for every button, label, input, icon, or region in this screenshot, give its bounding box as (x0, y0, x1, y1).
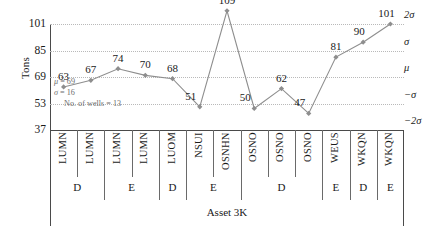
category-separator (186, 130, 187, 177)
category-label: OSNO (248, 132, 259, 178)
y-axis-tick-label: 37 (22, 124, 46, 136)
sigma-value: = 16 (58, 88, 75, 97)
data-point-label: 90 (354, 26, 365, 37)
category-separator (213, 130, 214, 177)
sigma-label: −2σ (404, 116, 438, 127)
group-separator (377, 177, 378, 200)
data-point-label: 109 (219, 0, 236, 6)
sigma-label: σ (404, 36, 438, 47)
wells-count-annotation: No. of wells = 13 (64, 99, 121, 110)
category-label: LUMN (139, 132, 150, 178)
mu-value: = 69 (58, 77, 75, 86)
category-separator (295, 130, 296, 177)
category-label: WKQN (384, 132, 395, 178)
y-axis-tick-label: 101 (22, 18, 46, 30)
category-label: NSUI (194, 132, 205, 178)
y-axis-tick-label: 69 (22, 71, 46, 83)
group-label: E (333, 182, 340, 193)
category-separator (104, 130, 105, 177)
category-separator (350, 130, 351, 177)
data-point-label: 67 (85, 64, 96, 75)
group-separator (322, 177, 323, 200)
data-point-label: 70 (140, 59, 151, 70)
group-label: E (210, 182, 217, 193)
group-label: D (169, 182, 177, 193)
sigma-label: 2σ (404, 10, 438, 21)
category-label: LUOM (167, 132, 178, 178)
data-point-label: 74 (113, 53, 124, 64)
sigma-label: μ (404, 63, 438, 74)
data-point-label: 47 (294, 97, 305, 108)
mean-annotation: μ = 69 (54, 77, 121, 88)
group-label: E (128, 182, 135, 193)
group-separator (159, 177, 160, 200)
data-point-label: 51 (185, 91, 196, 102)
data-point-label: 68 (167, 63, 178, 74)
category-label: LUMN (85, 132, 96, 178)
data-point-marker (333, 55, 338, 60)
sigma-reference-labels: 2σσμ−σ−2σ (404, 0, 440, 226)
category-label: WEUS (330, 132, 341, 178)
category-axis: LUMNLUMNLUMNLUMNLUOMNSUIOSNHNOSNOOSNOOSN… (50, 130, 404, 226)
data-point-marker (143, 73, 148, 78)
category-label: LUMN (112, 132, 123, 178)
category-label: OSNO (275, 132, 286, 178)
data-point-marker (224, 8, 229, 13)
category-separator (268, 130, 269, 177)
y-axis-tick-label: 85 (22, 45, 46, 57)
category-separator (322, 130, 323, 177)
stddev-annotation: σ = 16 (54, 88, 121, 99)
category-separator (159, 130, 160, 177)
chart-container: Tons 37536985101 2σσμ−σ−2σ 6367747068511… (0, 0, 440, 226)
category-separator (132, 130, 133, 177)
group-separator (350, 177, 351, 200)
data-point-label: 50 (240, 92, 251, 103)
category-separator (77, 130, 78, 177)
group-label: D (73, 182, 81, 193)
group-label: D (277, 182, 285, 193)
category-label: WKQN (357, 132, 368, 178)
group-separator (104, 177, 105, 200)
x-axis-title: Asset 3K (50, 206, 404, 218)
group-separator (241, 177, 242, 200)
sigma-label: −σ (404, 89, 438, 100)
data-point-label: 62 (276, 73, 287, 84)
category-label: OSNO (303, 132, 314, 178)
category-label: LUMN (58, 132, 69, 178)
data-point-label: 81 (330, 41, 341, 52)
category-label: OSNHN (221, 132, 232, 178)
group-separator (186, 177, 187, 200)
data-point-label: 101 (378, 8, 395, 19)
statistics-annotation: μ = 69 σ = 16 No. of wells = 13 (54, 77, 121, 109)
group-label: D (359, 182, 367, 193)
y-axis-tick-label: 53 (22, 98, 46, 110)
category-separator (241, 130, 242, 177)
data-point-marker (115, 66, 120, 71)
category-separator (377, 130, 378, 177)
x-axis-line (50, 130, 404, 131)
group-label: E (387, 182, 394, 193)
y-axis-tick-labels: 37536985101 (22, 0, 46, 226)
